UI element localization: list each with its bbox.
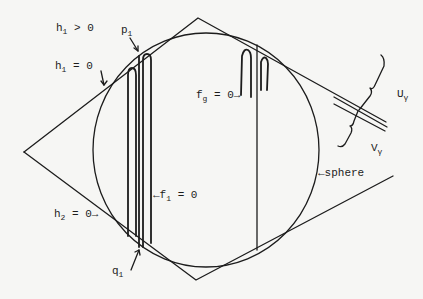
- loop-1: [128, 68, 136, 236]
- label-f1-zero: ←f1 = 0: [153, 190, 197, 203]
- q1-arrow-icon: [131, 250, 139, 270]
- loop-3: [143, 54, 151, 247]
- sphere-circle: [93, 33, 319, 267]
- label-sphere: ←sphere: [318, 168, 364, 179]
- p1-arrow-icon: [130, 38, 138, 51]
- label-u-gamma: Uγ: [397, 89, 408, 102]
- label-h1-zero: h1 = 0: [55, 61, 93, 74]
- u-gamma-brace: [359, 55, 384, 110]
- fg-loop-1: [241, 50, 251, 97]
- label-q1: q1: [112, 266, 123, 279]
- sphere-diagram: [0, 0, 423, 299]
- figure-canvas: h1 > 0 p1 h1 = 0 fg = 0→ Uγ Vγ ←sphere ←…: [0, 0, 423, 299]
- upper-left-plane-edge: [24, 18, 386, 152]
- label-p1: p1: [121, 25, 132, 38]
- label-h2-zero: h2 = 0→: [54, 209, 98, 222]
- v-gamma-brace: [338, 111, 358, 147]
- label-h1-positive: h1 > 0: [56, 23, 94, 36]
- fg-loop-2: [261, 58, 268, 91]
- label-v-gamma: Vγ: [371, 143, 382, 156]
- label-fg-zero: fg = 0→: [196, 90, 240, 103]
- parallel-line-upper: [334, 97, 387, 127]
